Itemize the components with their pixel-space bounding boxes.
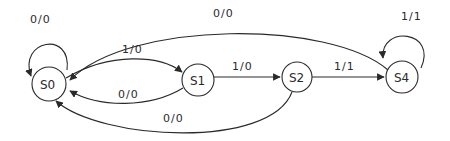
state-label-s1: S1 bbox=[190, 74, 205, 88]
edge-label-s1-s0: 0/0 bbox=[118, 88, 139, 101]
state-diagram: 0/0 0/0 1/0 0/0 1/0 1/1 0/0 1/1 S0 S1 S2… bbox=[0, 0, 450, 141]
edge-label-s4-s4: 1/1 bbox=[401, 10, 422, 23]
edge-label-s0-s0: 0/0 bbox=[30, 13, 51, 26]
edge-label-s1-s2: 1/0 bbox=[232, 60, 253, 73]
state-s0: S0 bbox=[32, 67, 66, 101]
edge-label-s2-s0: 0/0 bbox=[163, 112, 184, 125]
state-s4: S4 bbox=[386, 61, 418, 93]
edge-label-s2-s4: 1/1 bbox=[334, 60, 355, 73]
edge-s4-s0 bbox=[70, 34, 388, 80]
state-s2: S2 bbox=[282, 62, 312, 92]
state-label-s0: S0 bbox=[40, 78, 55, 92]
state-label-s4: S4 bbox=[394, 71, 409, 85]
edge-label-s4-s0: 0/0 bbox=[213, 7, 234, 20]
state-s1: S1 bbox=[182, 64, 214, 96]
edge-label-s0-s1: 1/0 bbox=[122, 43, 143, 56]
state-label-s2: S2 bbox=[289, 71, 304, 85]
